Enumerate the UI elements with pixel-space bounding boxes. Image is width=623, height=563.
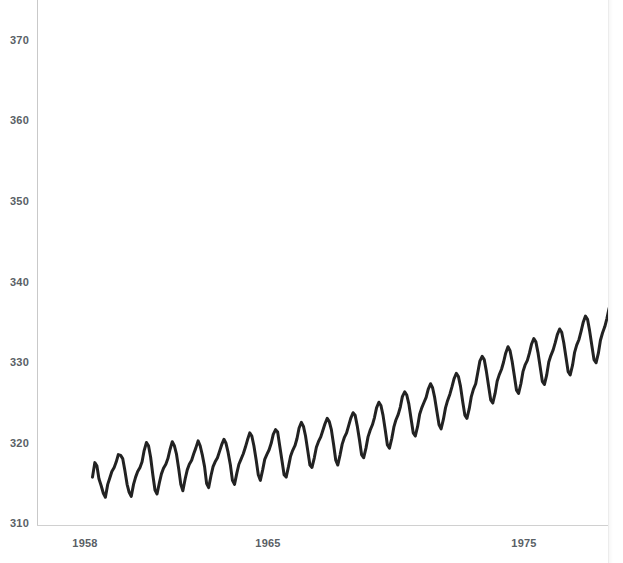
plot-right-clip-edge	[608, 0, 623, 563]
co2-series-line	[92, 297, 613, 497]
chart-figure: 370 360 350 340 330 320 310 1958 1965 19…	[0, 0, 623, 563]
chart-plot-area	[0, 0, 623, 563]
